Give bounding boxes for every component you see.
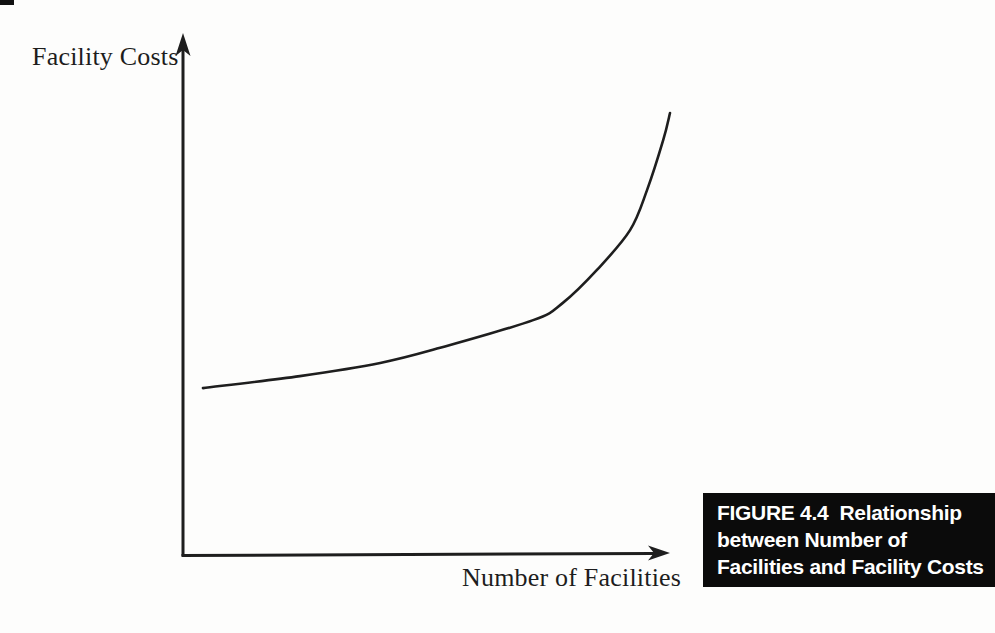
figure-caption: FIGURE 4.4 Relationship between Number o… — [703, 493, 995, 587]
figure-caption-line: Facilities and Facility Costs — [717, 553, 993, 580]
x-axis-label: Number of Facilities — [462, 563, 681, 593]
x-axis-line — [182, 554, 655, 556]
figure-caption-line: between Number of — [717, 526, 993, 553]
cost-curve — [203, 113, 670, 388]
figure-caption-line: FIGURE 4.4 Relationship — [717, 499, 993, 526]
figure-page: Facility Costs Number of Facilities FIGU… — [0, 0, 995, 633]
y-axis-label: Facility Costs — [32, 42, 179, 72]
